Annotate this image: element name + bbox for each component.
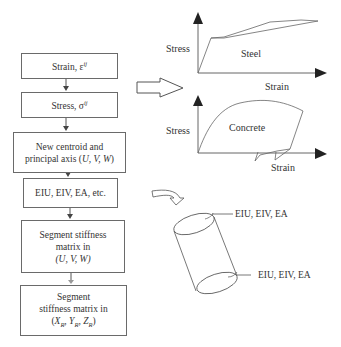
strain-label: Strain, εij — [52, 58, 87, 73]
segment-local-box: Segment stiffness matrix in (U, V, W) — [21, 220, 125, 273]
y-axis-arrowhead-icon — [193, 95, 203, 106]
stress-label: Stress, σij — [51, 97, 87, 112]
segment-global-box: Segment stiffness matrix in (XR, YR, ZR) — [20, 285, 127, 336]
centroid-line2-suffix: ) — [111, 154, 114, 164]
steel-ylabel: Stress — [166, 43, 190, 54]
concrete-xlabel: Strain — [271, 162, 295, 173]
concrete-ylabel: Stress — [166, 125, 190, 136]
cylinder-icon — [171, 209, 251, 298]
strain-superscript: ij — [83, 60, 87, 67]
stress-box: Stress, σij — [21, 92, 118, 118]
curved-arrow-icon — [152, 190, 184, 205]
strain-box: Strain, εij — [21, 53, 118, 79]
segment-local-axes: (U, V, W) — [55, 254, 90, 264]
y-axis-arrowhead-icon — [193, 12, 203, 24]
cylinder-bottom-label: EIU, EIV, EA — [258, 270, 311, 280]
paren-close: ) — [92, 316, 95, 326]
x-axis-arrowhead-icon — [315, 148, 327, 159]
centroid-box: New centroid and principal axis (U, V, W… — [13, 132, 126, 173]
steel-chart — [193, 12, 327, 78]
segment-local-line3: (U, V, W) — [55, 253, 90, 265]
stress-superscript: ij — [84, 99, 88, 106]
centroid-line2-prefix: principal axis ( — [25, 154, 82, 164]
segment-global-line1: Segment — [57, 291, 90, 303]
concrete-title: Concrete — [229, 122, 265, 133]
strain-text: Strain, ε — [52, 63, 83, 73]
centroid-line2: principal axis (U, V, W) — [25, 153, 114, 165]
centroid-line1: New centroid and — [36, 141, 104, 153]
steel-xlabel: Strain — [265, 81, 289, 92]
block-arrow-icon — [137, 78, 183, 97]
steel-title: Steel — [241, 48, 261, 59]
cylinder-top-label: EIU, EIV, EA — [235, 209, 288, 219]
rigidities-text: EIU, EIV, EA, etc. — [35, 187, 106, 199]
x-axis-arrowhead-icon — [315, 68, 327, 78]
centroid-axes: U, V, W — [82, 154, 111, 164]
segment-local-line1: Segment stiffness — [39, 229, 106, 241]
segment-global-line3: (XR, YR, ZR) — [51, 315, 95, 331]
stress-text: Stress, σ — [51, 102, 84, 112]
segment-local-line2: matrix in — [56, 241, 91, 253]
segment-global-line2: stiffness matrix in — [39, 303, 107, 315]
rigidities-box: EIU, EIV, EA, etc. — [23, 178, 118, 208]
